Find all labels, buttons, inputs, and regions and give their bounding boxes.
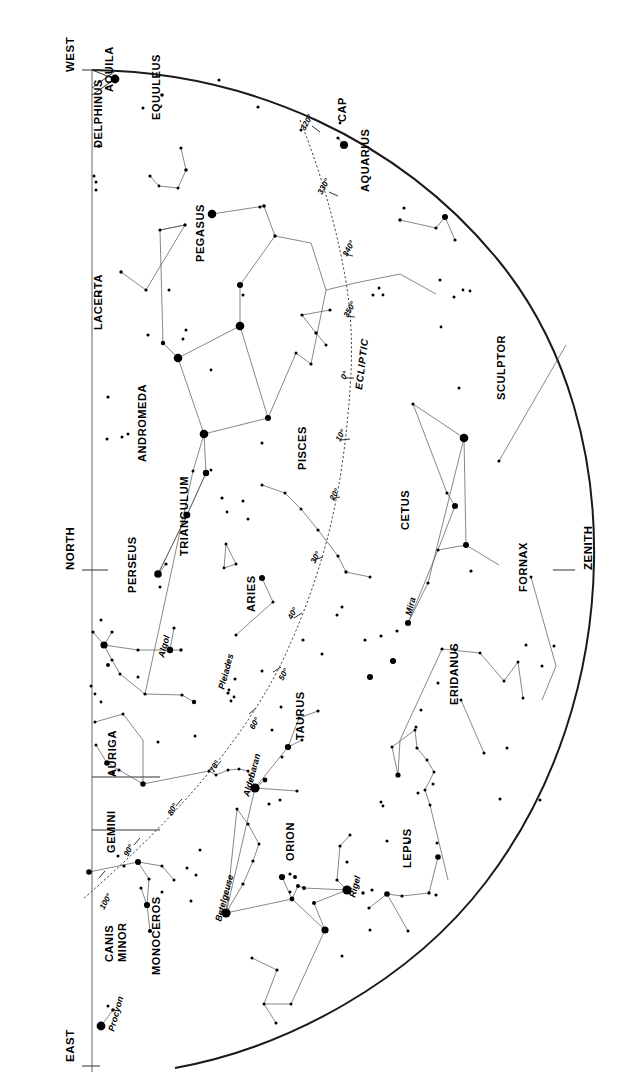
star xyxy=(290,897,295,902)
star xyxy=(335,878,338,881)
star xyxy=(370,888,373,891)
star xyxy=(530,576,533,579)
star xyxy=(195,874,198,877)
star xyxy=(173,879,176,882)
star xyxy=(341,955,344,958)
star xyxy=(295,352,298,355)
star xyxy=(284,492,287,495)
star xyxy=(460,434,469,443)
ecliptic-degree-label: 350° xyxy=(342,299,358,319)
star xyxy=(143,692,146,695)
star xyxy=(200,430,209,439)
star xyxy=(285,744,291,750)
star xyxy=(247,518,250,521)
deg-tick xyxy=(329,192,338,196)
star xyxy=(242,500,245,503)
star xyxy=(458,387,461,390)
star xyxy=(86,869,92,875)
star xyxy=(541,665,544,668)
constellation-label: CANIS xyxy=(103,925,115,962)
star xyxy=(227,769,230,772)
star xyxy=(261,670,264,673)
star xyxy=(192,700,196,704)
star xyxy=(100,701,103,704)
star xyxy=(340,141,348,149)
ecliptic-degree-label: 320° xyxy=(299,112,315,132)
star xyxy=(395,629,398,632)
link-triangulum xyxy=(224,544,236,568)
star xyxy=(379,634,382,637)
star xyxy=(110,658,113,661)
star xyxy=(275,968,278,971)
star xyxy=(261,442,264,445)
constellation-label: CETUS xyxy=(399,490,411,530)
constellation-lines xyxy=(89,138,566,1026)
star xyxy=(247,823,250,826)
star xyxy=(97,1022,106,1031)
star xyxy=(237,282,243,288)
star xyxy=(336,554,339,557)
star xyxy=(280,706,283,709)
star xyxy=(223,567,226,570)
star xyxy=(194,735,197,738)
star xyxy=(293,875,297,879)
star xyxy=(164,562,167,565)
ecliptic-degree-label: 0° xyxy=(339,369,351,381)
constellation-label: AQUILA xyxy=(103,46,115,92)
star xyxy=(100,619,103,622)
star xyxy=(121,436,124,439)
star xyxy=(225,543,228,546)
star-name-label: Algol xyxy=(156,634,172,660)
link-auriga xyxy=(95,714,143,784)
star xyxy=(185,329,188,332)
star xyxy=(281,756,284,759)
constellation-label: TRIANGULUM xyxy=(178,476,190,556)
ecliptic-label: ECLIPTIC xyxy=(353,337,370,390)
star xyxy=(261,484,264,487)
star xyxy=(437,682,440,685)
star xyxy=(177,187,180,190)
star xyxy=(241,882,244,885)
star xyxy=(539,799,542,802)
star xyxy=(226,511,229,514)
star xyxy=(230,700,233,703)
constellation-label: DELPHINUS xyxy=(92,79,104,148)
star xyxy=(146,333,149,336)
link-monoceros xyxy=(252,958,291,1023)
ecliptic-degree-label: 70° xyxy=(208,758,222,774)
star xyxy=(203,470,209,476)
star xyxy=(180,693,183,696)
star xyxy=(309,362,312,365)
star xyxy=(426,759,429,762)
star xyxy=(435,854,441,860)
star xyxy=(415,726,418,729)
link-perseus xyxy=(104,628,194,702)
star xyxy=(390,658,396,664)
star xyxy=(391,746,394,749)
star xyxy=(469,569,472,572)
star xyxy=(440,647,443,650)
star xyxy=(288,872,291,875)
star xyxy=(279,799,282,802)
deg-tick xyxy=(249,708,256,714)
star xyxy=(420,709,423,712)
star xyxy=(436,548,439,551)
star xyxy=(251,957,254,960)
cardinal-label-zenith: ZENITH xyxy=(582,525,594,570)
constellation-label: SCULPTOR xyxy=(495,335,507,400)
star xyxy=(148,174,151,177)
star xyxy=(301,638,304,641)
star xyxy=(439,279,442,282)
star xyxy=(415,746,418,749)
ecliptic-degree-label: 30° xyxy=(309,549,323,565)
star xyxy=(106,438,109,441)
star xyxy=(90,685,93,688)
star xyxy=(256,105,259,108)
link-andromeda-2 xyxy=(145,434,204,694)
star xyxy=(506,747,509,750)
ecliptic-deg-ticks xyxy=(99,126,355,878)
star xyxy=(95,189,98,192)
star xyxy=(95,181,98,184)
star xyxy=(273,234,276,237)
star xyxy=(463,542,469,548)
